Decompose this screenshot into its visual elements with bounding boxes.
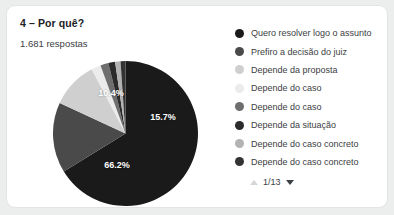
slice-label-2: 15.7% — [150, 112, 176, 122]
slice-label-3: 10.4% — [98, 88, 124, 98]
legend-item-label: Depende da proposta — [251, 65, 338, 75]
page-title: 4 – Por quê? — [20, 17, 84, 29]
legend-item-label: Depende da situação — [251, 120, 336, 130]
legend-item[interactable]: Prefiro a decisão do juiz — [235, 42, 387, 60]
legend-swatch-icon — [235, 121, 244, 130]
slice-label-1: 66.2% — [104, 160, 130, 170]
legend-swatch-icon — [235, 157, 244, 166]
triangle-down-icon[interactable] — [286, 180, 294, 185]
legend-item-label: Depende do caso — [251, 83, 322, 93]
legend-swatch-icon — [235, 29, 244, 38]
legend-swatch-icon — [235, 47, 244, 56]
legend-item[interactable]: Depende da proposta — [235, 61, 387, 79]
legend-item[interactable]: Quero resolver logo o assunto — [235, 24, 387, 42]
legend-item-label: Depende do caso — [251, 102, 322, 112]
pie-chart: 10.4% 15.7% 66.2% — [53, 61, 198, 206]
legend-item[interactable]: Depende do caso concreto — [235, 153, 387, 171]
triangle-up-icon[interactable] — [250, 180, 258, 185]
legend-swatch-icon — [235, 102, 244, 111]
legend-pager[interactable]: 1/13 — [250, 175, 294, 189]
legend-item-label: Depende do caso concreto — [251, 157, 359, 167]
question-card: 4 – Por quê? 1.681 respostas 10.4% 15.7%… — [6, 5, 388, 208]
legend-swatch-icon — [235, 65, 244, 74]
legend-item[interactable]: Depende da situação — [235, 116, 387, 134]
pie-svg — [53, 61, 198, 206]
chart-legend: Quero resolver logo o assuntoPrefiro a d… — [235, 24, 387, 171]
legend-item-label: Prefiro a decisão do juiz — [251, 47, 347, 57]
legend-item-label: Quero resolver logo o assunto — [251, 28, 372, 38]
legend-item[interactable]: Depende do caso concreto — [235, 134, 387, 152]
legend-swatch-icon — [235, 84, 244, 93]
legend-swatch-icon — [235, 139, 244, 148]
legend-item[interactable]: Depende do caso — [235, 79, 387, 97]
pager-label: 1/13 — [263, 177, 281, 187]
legend-item-label: Depende do caso concreto — [251, 139, 359, 149]
legend-item[interactable]: Depende do caso — [235, 98, 387, 116]
pie-graphic: 10.4% 15.7% 66.2% — [53, 61, 198, 206]
response-count: 1.681 respostas — [20, 38, 88, 49]
